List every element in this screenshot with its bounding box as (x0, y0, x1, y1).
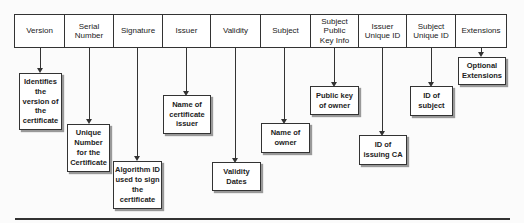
field-label: Subject (272, 26, 299, 36)
field-subject-unique-id: Subject Unique ID (406, 14, 456, 48)
field-label: Issuer Unique ID (365, 22, 401, 41)
field-subject-public-key-info: Subject Public Key Info (310, 14, 359, 48)
description-signature: Algorithm ID used to sign the certificat… (113, 161, 162, 209)
description-text: Name of certificate issuer (165, 100, 209, 129)
description-validity: Validity Dates (212, 162, 261, 191)
description-subject-public-key-info: Public key of owner (310, 86, 359, 115)
bottom-rule (15, 218, 510, 220)
field-label: Extensions (461, 26, 500, 36)
description-text: Optional Extensions (460, 61, 504, 81)
description-text: ID of issuing CA (361, 140, 405, 160)
description-extensions: Optional Extensions (458, 57, 506, 85)
field-version: Version (14, 14, 65, 48)
field-label: Version (26, 26, 53, 36)
description-subject: Name of owner (261, 123, 310, 153)
field-validity: Validity (210, 14, 261, 48)
field-issuer: Issuer (162, 14, 211, 48)
field-label: Subject Unique ID (413, 22, 449, 41)
field-label: Signature (121, 26, 155, 36)
connector-line (235, 48, 236, 160)
description-serial-number: Unique Number for the Certificate (67, 124, 110, 172)
field-extensions: Extensions (455, 14, 507, 48)
field-signature: Signature (113, 14, 163, 48)
description-text: Public key of owner (312, 91, 357, 111)
description-issuer: Name of certificate issuer (163, 95, 211, 134)
field-subject: Subject (260, 14, 311, 48)
field-label: Validity (223, 26, 248, 36)
connector-line (89, 48, 90, 121)
field-label: Issuer (176, 26, 198, 36)
description-text: ID of subject (412, 91, 451, 111)
connector-line (431, 48, 432, 84)
connector-line (186, 48, 187, 93)
description-text: Validity Dates (214, 167, 259, 187)
connector-line (334, 48, 335, 84)
connector-line (284, 48, 285, 121)
description-text: Identifies the version of the certificat… (21, 77, 60, 126)
description-text: Unique Number for the Certificate (69, 128, 108, 167)
field-serial-number: Serial Number (64, 14, 114, 48)
connector-line (137, 48, 138, 158)
field-label: Subject Public Key Info (318, 17, 352, 46)
connector-line (40, 48, 41, 70)
description-text: Name of owner (263, 128, 308, 148)
field-label: Serial Number (74, 22, 104, 41)
connector-line (382, 48, 383, 133)
description-subject-unique-id: ID of subject (410, 86, 453, 116)
description-issuer-unique-id: ID of issuing CA (359, 135, 407, 165)
description-version: Identifies the version of the certificat… (19, 73, 62, 130)
description-text: Algorithm ID used to sign the certificat… (115, 165, 160, 204)
field-issuer-unique-id: Issuer Unique ID (358, 14, 407, 48)
